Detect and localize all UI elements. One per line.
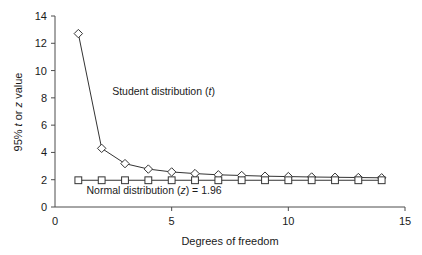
data-point-marker: [168, 177, 175, 184]
x-axis-title: Degrees of freedom: [181, 235, 278, 247]
y-axis-title: 95% t or z value: [12, 73, 24, 152]
data-point-marker: [122, 177, 129, 184]
data-point-marker: [215, 177, 222, 184]
y-tick-label-2: 2: [41, 174, 47, 186]
chart-plot-area: 02468101214 051015 Student distribution …: [0, 0, 422, 255]
y-tick-label-8: 8: [41, 92, 47, 104]
y-tick-label-6: 6: [41, 119, 47, 131]
data-point-marker: [355, 177, 362, 184]
data-point-marker: [285, 177, 292, 184]
y-tick-label-4: 4: [41, 146, 47, 158]
y-tick-label-0: 0: [41, 201, 47, 213]
x-tick-label-0: 0: [52, 215, 58, 227]
svg-text:95% t or z value: 95% t or z value: [12, 73, 24, 152]
y-tick-label-14: 14: [35, 10, 47, 22]
data-point-marker: [192, 177, 199, 184]
data-point-marker: [262, 177, 269, 184]
data-point-marker: [75, 177, 82, 184]
data-point-marker: [98, 177, 105, 184]
chart-background: [0, 0, 422, 255]
data-point-marker: [308, 177, 315, 184]
chart-container: 02468101214 051015 Student distribution …: [0, 0, 422, 255]
data-point-marker: [378, 177, 385, 184]
data-point-marker: [332, 177, 339, 184]
normal-annotation: Normal distribution (z) = 1.96: [87, 184, 222, 196]
x-tick-label-15: 15: [399, 215, 411, 227]
y-tick-label-10: 10: [35, 65, 47, 77]
data-point-marker: [238, 177, 245, 184]
x-tick-label-10: 10: [282, 215, 294, 227]
data-point-marker: [145, 177, 152, 184]
x-tick-label-5: 5: [169, 215, 175, 227]
student-annotation: Student distribution (t): [112, 85, 215, 97]
y-tick-label-12: 12: [35, 37, 47, 49]
